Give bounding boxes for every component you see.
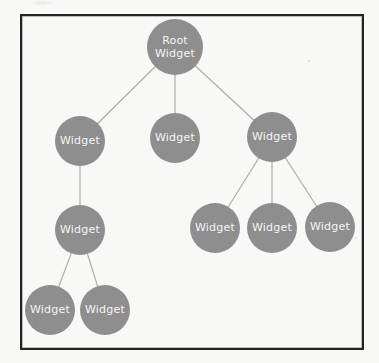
tree-node-widget: Widget [247, 112, 297, 162]
tree-node-widget: Widget [247, 203, 297, 253]
tree-node-widget: Widget [150, 113, 200, 163]
scanned-page: Root WidgetWidgetWidgetWidgetWidgetWidge… [0, 0, 379, 363]
tree-node-label: Widget [193, 221, 237, 234]
tree-node-widget: Widget [55, 116, 105, 166]
tree-node-label: Widget [58, 223, 102, 236]
tree-node-widget: Widget [80, 285, 130, 335]
tree-node-label: Widget [308, 220, 352, 233]
tree-node-label: Widget [83, 303, 127, 316]
tree-node-label: Widget [250, 221, 294, 234]
tree-node-label: Widget [250, 130, 294, 143]
tree-node-label: Widget [153, 131, 197, 144]
tree-node-label: Widget [58, 134, 102, 147]
tree-node-widget: Widget [305, 202, 355, 252]
tree-node-widget: Widget [25, 285, 75, 335]
tree-node-label: Root Widget [147, 34, 203, 60]
tree-node-widget: Widget [190, 203, 240, 253]
tree-nodes: Root WidgetWidgetWidgetWidgetWidgetWidge… [0, 0, 379, 363]
tree-node-widget: Widget [55, 205, 105, 255]
tree-node-root-widget: Root Widget [147, 19, 203, 75]
tree-node-label: Widget [28, 303, 72, 316]
